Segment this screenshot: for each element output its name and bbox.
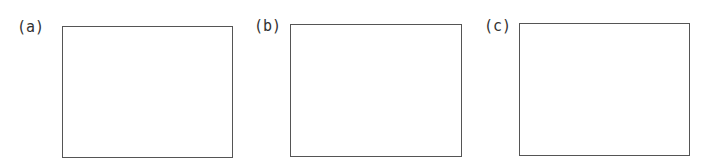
panel-a-box [62,26,233,158]
panel-a-label: (a) [17,20,44,35]
panel-b-box [290,24,462,157]
panel-c-label: (c) [484,19,511,34]
panel-c-box [519,23,690,156]
panel-b-label: (b) [254,19,281,34]
